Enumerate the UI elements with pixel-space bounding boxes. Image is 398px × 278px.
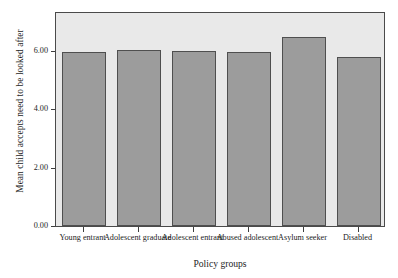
y-axis-title: Mean child accepts need to be looked aft… — [15, 0, 25, 226]
bar — [337, 57, 381, 226]
x-tick-mark — [303, 227, 304, 232]
x-tick-mark — [248, 227, 249, 232]
bar — [117, 50, 161, 226]
y-tick-label: 6.00 — [34, 46, 48, 55]
y-tick-label: 4.00 — [34, 104, 48, 113]
y-tick-mark — [51, 109, 55, 110]
bar-chart-figure: Mean child accepts need to be looked aft… — [0, 0, 398, 278]
bar — [227, 52, 271, 226]
x-axis-title: Policy groups — [55, 258, 385, 269]
x-tick-mark — [83, 227, 84, 232]
bars-layer — [56, 13, 384, 226]
x-tick-mark — [358, 227, 359, 232]
x-tick-mark — [138, 227, 139, 232]
x-tick-label: Disabled — [318, 233, 398, 243]
bar — [172, 51, 216, 226]
plot-area — [55, 12, 385, 227]
y-tick-label: 2.00 — [34, 163, 48, 172]
y-tick-mark — [51, 226, 55, 227]
y-tick-mark — [51, 168, 55, 169]
y-tick-mark — [51, 51, 55, 52]
bar — [62, 52, 106, 226]
y-tick-label: 0.00 — [34, 221, 48, 230]
x-tick-mark — [193, 227, 194, 232]
bar — [282, 37, 326, 226]
